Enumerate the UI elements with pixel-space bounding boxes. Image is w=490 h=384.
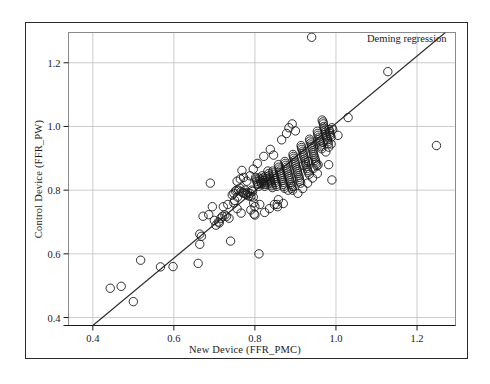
plot-canvas bbox=[0, 0, 490, 384]
x-tick-label: 0.4 bbox=[86, 333, 99, 344]
data-point bbox=[256, 200, 264, 208]
data-point bbox=[260, 152, 268, 160]
y-tick-label: 1.0 bbox=[37, 121, 61, 132]
data-point bbox=[197, 232, 205, 240]
data-point bbox=[384, 67, 392, 75]
data-point bbox=[307, 33, 315, 41]
data-point bbox=[344, 113, 352, 121]
y-axis-title-wrapper: Control Device (FFR_PW) bbox=[28, 64, 46, 294]
data-point bbox=[291, 127, 299, 135]
data-point bbox=[208, 203, 216, 211]
data-point bbox=[206, 179, 214, 187]
data-point bbox=[199, 212, 207, 220]
data-point bbox=[324, 160, 332, 168]
data-point bbox=[299, 184, 307, 192]
y-tick-label: 0.4 bbox=[37, 312, 61, 323]
data-point bbox=[117, 282, 125, 290]
data-point bbox=[226, 237, 234, 245]
y-axis-title: Control Device (FFR_PW) bbox=[33, 120, 44, 238]
x-tick-label: 1.0 bbox=[329, 333, 342, 344]
x-tick-label: 1.2 bbox=[410, 333, 423, 344]
data-point bbox=[253, 159, 261, 167]
tick-marks bbox=[64, 63, 418, 331]
data-point bbox=[194, 259, 202, 267]
x-tick-label: 0.6 bbox=[167, 333, 180, 344]
y-tick-label: 0.8 bbox=[37, 185, 61, 196]
scatter-plot-figure: Deming regression New Device (FFR_PMC) C… bbox=[0, 0, 490, 384]
data-point bbox=[328, 176, 336, 184]
deming-regression-label: Deming regression bbox=[367, 33, 447, 44]
y-tick-label: 1.2 bbox=[37, 57, 61, 68]
data-point bbox=[136, 256, 144, 264]
data-point bbox=[129, 297, 137, 305]
data-point bbox=[169, 262, 177, 270]
scatter-points bbox=[106, 33, 441, 306]
y-tick-label: 0.6 bbox=[37, 248, 61, 259]
x-tick-label: 0.8 bbox=[248, 333, 261, 344]
x-axis-title: New Device (FFR_PMC) bbox=[0, 344, 490, 355]
data-point bbox=[282, 129, 290, 137]
data-point bbox=[196, 240, 204, 248]
data-point bbox=[106, 284, 114, 292]
data-point bbox=[432, 141, 440, 149]
